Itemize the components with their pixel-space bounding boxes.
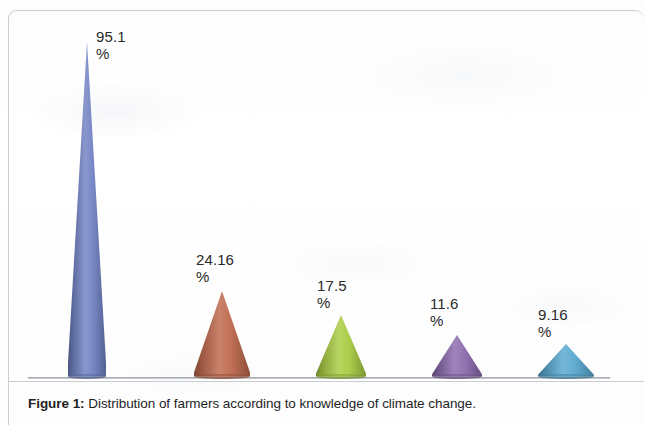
cone-base-ellipse (316, 374, 366, 379)
cone-shape (538, 344, 594, 376)
figure-caption-label: Figure 1: (28, 396, 85, 411)
data-label-percent: % (430, 313, 458, 330)
data-label-percent: % (538, 324, 568, 341)
cone-shape (194, 291, 250, 376)
cone-shape (432, 335, 482, 376)
cone-bar (194, 288, 250, 381)
data-label: 9.16% (538, 307, 568, 341)
figure-caption-text: Distribution of farmers according to kno… (85, 396, 476, 411)
data-label-value: 11.6 (430, 295, 458, 312)
data-label-value: 9.16 (538, 306, 568, 323)
data-label: 95.1% (96, 29, 126, 63)
data-label: 17.5% (317, 278, 347, 312)
cone-base-ellipse (68, 374, 106, 379)
data-label: 24.16% (196, 252, 234, 286)
cone-base-ellipse (194, 374, 250, 379)
cone-bar (316, 312, 366, 381)
data-label-percent: % (96, 46, 126, 63)
cone-bar (432, 332, 482, 381)
cone-base-ellipse (432, 374, 482, 379)
data-label-percent: % (196, 269, 234, 286)
data-label-value: 24.16 (196, 251, 234, 268)
cone-shape (68, 42, 106, 376)
caption-left-rule (8, 382, 9, 425)
figure-caption: Figure 1: Distribution of farmers accord… (28, 396, 628, 411)
chart-plot-area: 95.1%24.16%17.5%11.6%9.16% (0, 0, 645, 382)
cone-base-ellipse (538, 374, 594, 379)
data-label-percent: % (317, 295, 347, 312)
cone-shape (316, 315, 366, 376)
data-label-value: 17.5 (317, 277, 347, 294)
data-label: 11.6% (430, 296, 458, 330)
cone-bar (68, 39, 106, 381)
data-label-value: 95.1 (96, 28, 126, 45)
cone-bar (538, 341, 594, 381)
